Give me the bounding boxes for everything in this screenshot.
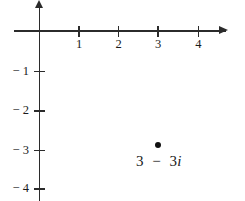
y-tick-label-minus-1: − 1 <box>3 65 29 78</box>
x-axis-line <box>14 30 226 32</box>
x-tick-label-3: 3 <box>148 38 168 51</box>
x-tick-label-1: 1 <box>69 38 89 51</box>
y-tick-label-minus-2: − 2 <box>3 104 29 117</box>
data-point-label: 3 − 3i <box>136 153 182 170</box>
data-point-marker <box>155 142 162 149</box>
y-axis-arrow-icon <box>35 0 43 8</box>
x-tick-3 <box>157 26 159 37</box>
y-tick-minus-2 <box>34 110 45 112</box>
y-tick-minus-4 <box>34 188 45 190</box>
y-tick-minus-1 <box>34 71 45 73</box>
x-tick-label-2: 2 <box>109 38 129 51</box>
point-label-imaginary-unit: i <box>177 153 182 169</box>
x-tick-1 <box>78 26 80 37</box>
x-tick-2 <box>118 26 120 37</box>
x-tick-label-4: 4 <box>188 38 208 51</box>
complex-plane-figure: 1 2 3 4 − 1 − 2 − 3 − 4 3 − 3i <box>0 0 245 201</box>
x-axis-arrow-icon <box>219 26 228 34</box>
x-tick-4 <box>198 26 200 37</box>
y-tick-minus-3 <box>34 150 45 152</box>
y-tick-label-minus-4: − 4 <box>3 182 29 195</box>
y-tick-label-minus-3: − 3 <box>3 144 29 157</box>
point-label-operator: − <box>152 153 161 169</box>
y-axis-line <box>39 3 41 201</box>
point-label-real: 3 <box>136 153 144 169</box>
